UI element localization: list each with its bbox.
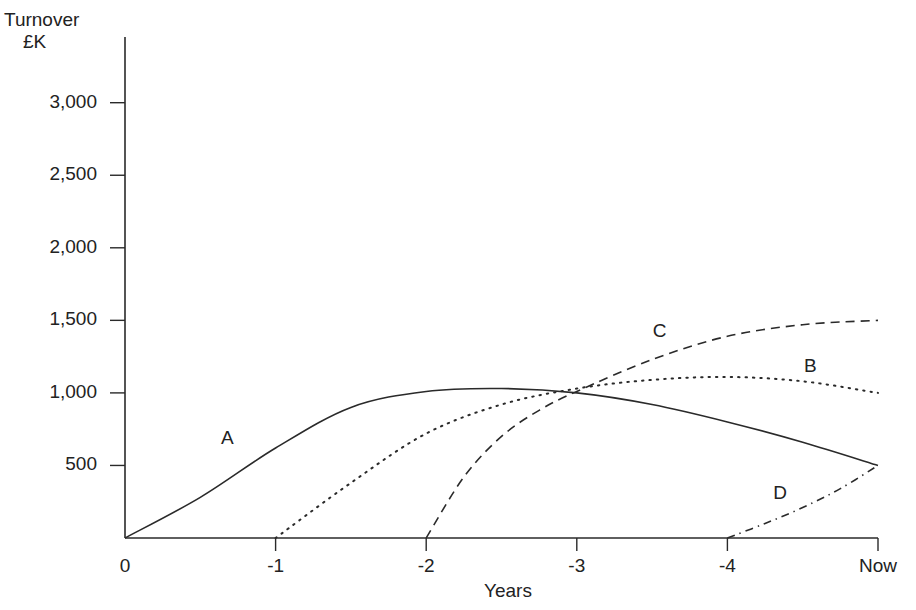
series-d-line (727, 465, 878, 538)
x-tick-label: 0 (120, 555, 131, 577)
axes (110, 37, 878, 551)
series-label-a: A (221, 427, 234, 449)
x-tick-label: -4 (719, 555, 736, 577)
y-tick-label: 1,500 (49, 308, 97, 330)
y-tick-label: 3,000 (49, 91, 97, 113)
x-tick-label: Now (859, 555, 897, 577)
x-tick-label: -1 (267, 555, 284, 577)
series-label-b: B (804, 355, 817, 377)
y-tick-label: 500 (65, 453, 97, 475)
x-axis-title: Years (484, 580, 532, 602)
series-c-line (426, 320, 878, 538)
y-tick-label: 2,000 (49, 236, 97, 258)
y-axis-title-line2: £K (23, 31, 46, 53)
y-axis-title-line1: Turnover (4, 9, 79, 31)
turnover-chart (0, 0, 916, 610)
series-lines (125, 320, 878, 538)
series-a-line (125, 388, 878, 538)
series-label-d: D (773, 482, 787, 504)
x-tick-label: -3 (568, 555, 585, 577)
series-label-c: C (653, 320, 667, 342)
y-tick-label: 2,500 (49, 163, 97, 185)
y-tick-label: 1,000 (49, 381, 97, 403)
x-tick-label: -2 (418, 555, 435, 577)
